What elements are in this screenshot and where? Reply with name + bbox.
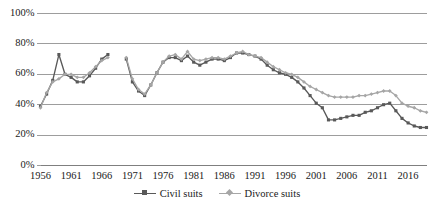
- data-point: [333, 95, 337, 99]
- data-point: [57, 53, 60, 56]
- data-point: [198, 64, 201, 67]
- data-point: [345, 115, 348, 118]
- y-tick-label: 20%: [0, 129, 35, 140]
- data-point: [413, 124, 416, 127]
- chart-legend: Civil suitsDivorce suits: [0, 185, 434, 201]
- data-point: [302, 86, 305, 89]
- data-point: [321, 106, 324, 109]
- data-point: [333, 118, 336, 121]
- legend-marker-icon: [219, 189, 241, 198]
- data-point: [106, 53, 109, 56]
- data-point: [339, 117, 342, 120]
- data-point: [351, 114, 354, 117]
- data-point: [363, 94, 367, 98]
- data-point: [339, 95, 343, 99]
- y-tick-label: 40%: [0, 99, 35, 110]
- data-point: [272, 68, 275, 71]
- data-point: [192, 61, 195, 64]
- y-tick-label: 0%: [0, 160, 35, 171]
- data-point: [186, 55, 189, 58]
- data-point: [425, 126, 428, 129]
- data-point: [419, 126, 422, 129]
- data-point: [345, 95, 349, 99]
- axis-tick-marks: [37, 14, 41, 166]
- y-tick-label: 60%: [0, 68, 35, 79]
- data-point: [198, 59, 202, 63]
- data-point: [290, 76, 293, 79]
- data-point: [388, 102, 391, 105]
- data-point: [357, 94, 361, 98]
- legend-label: Civil suits: [160, 188, 203, 199]
- legend-marker-icon: [134, 189, 156, 198]
- data-point: [204, 57, 208, 61]
- data-point: [376, 91, 380, 95]
- data-point: [407, 121, 410, 124]
- gridlines: [41, 14, 427, 166]
- data-point: [400, 117, 403, 120]
- x-tick-label: 2016: [386, 171, 430, 182]
- data-point: [266, 64, 269, 67]
- series-civil-suits: [39, 51, 428, 129]
- data-point: [278, 71, 281, 74]
- data-point: [174, 56, 177, 59]
- data-point: [358, 114, 361, 117]
- series-line: [41, 52, 427, 113]
- data-point: [364, 111, 367, 114]
- data-point: [376, 106, 379, 109]
- data-point: [204, 61, 207, 64]
- data-point: [382, 89, 386, 93]
- data-point: [88, 74, 91, 77]
- data-point: [351, 95, 355, 99]
- line-chart: 0%20%40%60%80%100% 195619611966197119761…: [0, 0, 434, 207]
- data-point: [70, 76, 73, 79]
- data-point: [370, 109, 373, 112]
- legend-label: Divorce suits: [245, 188, 301, 199]
- data-point: [296, 80, 299, 83]
- y-tick-label: 100%: [0, 8, 35, 19]
- data-point: [327, 118, 330, 121]
- legend-item-civil-suits[interactable]: Civil suits: [134, 188, 203, 199]
- data-point: [394, 109, 397, 112]
- data-point: [315, 102, 318, 105]
- data-point: [382, 103, 385, 106]
- y-tick-label: 80%: [0, 38, 35, 49]
- data-point: [76, 80, 79, 83]
- data-point: [425, 110, 429, 114]
- data-point: [309, 94, 312, 97]
- data-point: [82, 80, 85, 83]
- legend-item-divorce-suits[interactable]: Divorce suits: [219, 188, 301, 199]
- series-layer: [39, 50, 429, 129]
- data-point: [369, 92, 373, 96]
